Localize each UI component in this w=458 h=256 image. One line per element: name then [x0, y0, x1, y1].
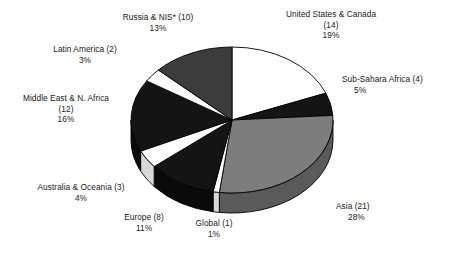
- slice-label-europe: Europe (8) 11%: [110, 212, 178, 233]
- label-line-2: 5%: [342, 85, 458, 96]
- label-line-2: 3%: [28, 55, 142, 66]
- label-line-1: Asia (21): [336, 201, 436, 212]
- label-line-1: United States & Canada: [256, 9, 406, 20]
- label-line-2: 1%: [182, 229, 246, 240]
- label-line-1: Middle East & N. Africa: [4, 93, 128, 104]
- slice-label-latin-america: Latin America (2) 3%: [28, 44, 142, 65]
- label-line-1: Global (1): [182, 218, 246, 229]
- label-line-1: Australia & Oceania (3): [20, 182, 142, 193]
- label-line-3: 16%: [4, 114, 128, 125]
- pie-chart-figure: United States & Canada (14) 19% Sub-Saha…: [0, 0, 458, 256]
- label-line-1: Latin America (2): [28, 44, 142, 55]
- label-line-1: Europe (8): [110, 212, 178, 223]
- label-line-1: Sub-Sahara Africa (4): [342, 74, 458, 85]
- label-line-2: 28%: [336, 212, 436, 223]
- pie-slice-side: [213, 192, 219, 213]
- slice-label-global: Global (1) 1%: [182, 218, 246, 239]
- label-line-2: (12): [4, 104, 128, 115]
- label-line-2: (14): [256, 20, 406, 31]
- label-line-2: 13%: [96, 23, 220, 34]
- label-line-2: 4%: [20, 193, 142, 204]
- slice-label-asia: Asia (21) 28%: [336, 201, 436, 222]
- label-line-3: 19%: [256, 30, 406, 41]
- label-line-1: Russia & NIS* (10): [96, 12, 220, 23]
- pie-slice-asia: [219, 115, 333, 193]
- slice-label-russia-nis: Russia & NIS* (10) 13%: [96, 12, 220, 33]
- slice-label-sub-sahara-africa: Sub-Sahara Africa (4) 5%: [342, 74, 458, 95]
- label-line-2: 11%: [110, 223, 178, 234]
- slice-label-middle-east-n-africa: Middle East & N. Africa (12) 16%: [4, 93, 128, 125]
- slice-label-united-states-canada: United States & Canada (14) 19%: [256, 9, 406, 41]
- slice-label-australia-oceania: Australia & Oceania (3) 4%: [20, 182, 142, 203]
- pie-slices: [131, 47, 333, 193]
